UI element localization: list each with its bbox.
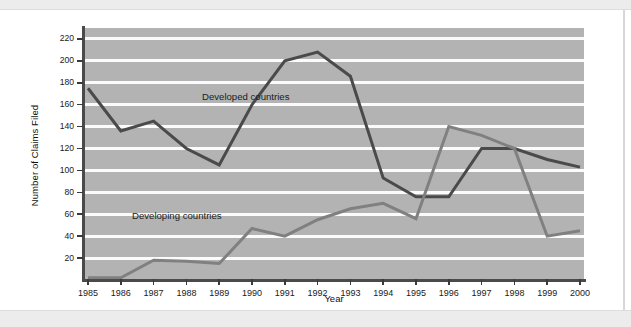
x-tick-mark xyxy=(186,279,188,285)
y-tick-mark xyxy=(77,60,83,62)
x-tick-mark xyxy=(251,279,253,285)
x-tick-mark xyxy=(153,279,155,285)
y-tick-label: 20 xyxy=(34,253,74,263)
x-tick-mark xyxy=(120,279,122,285)
x-tick-mark xyxy=(546,279,548,285)
y-tick-label: 40 xyxy=(34,231,74,241)
x-tick-mark xyxy=(415,279,417,285)
line-chart: Number of Claims Filed Year Developed co… xyxy=(4,10,625,310)
y-tick-mark xyxy=(77,104,83,106)
y-tick-label: 180 xyxy=(34,77,74,87)
x-tick-mark xyxy=(448,279,450,285)
x-tick-mark xyxy=(218,279,220,285)
page-bottom-band xyxy=(0,310,631,327)
series-label-developing: Developing countries xyxy=(132,210,222,221)
y-tick-mark xyxy=(77,235,83,237)
series-label-developed: Developed countries xyxy=(202,91,289,102)
x-tick-mark xyxy=(382,279,384,285)
y-tick-mark xyxy=(77,170,83,172)
x-tick-mark xyxy=(87,279,89,285)
y-tick-mark xyxy=(77,126,83,128)
series-line-developed xyxy=(88,52,580,197)
y-tick-label: 200 xyxy=(34,55,74,65)
series-lines xyxy=(84,28,584,280)
x-tick-mark xyxy=(317,279,319,285)
x-axis-line xyxy=(82,279,586,282)
x-tick-label: 2000 xyxy=(558,288,602,298)
plot-area: Developed countries Developing countries xyxy=(84,28,584,280)
x-tick-mark xyxy=(481,279,483,285)
y-tick-label: 60 xyxy=(34,209,74,219)
y-tick-mark xyxy=(77,148,83,150)
figure-page: Number of Claims Filed Year Developed co… xyxy=(4,10,625,310)
x-tick-mark xyxy=(284,279,286,285)
y-tick-mark xyxy=(77,82,83,84)
y-tick-mark xyxy=(77,257,83,259)
y-tick-mark xyxy=(77,213,83,215)
y-tick-label: 160 xyxy=(34,99,74,109)
y-tick-label: 140 xyxy=(34,121,74,131)
page-top-band xyxy=(0,0,631,10)
y-tick-mark xyxy=(77,192,83,194)
y-tick-label: 120 xyxy=(34,143,74,153)
y-tick-label: 220 xyxy=(34,33,74,43)
y-tick-mark xyxy=(77,38,83,40)
x-tick-mark xyxy=(514,279,516,285)
y-tick-label: 80 xyxy=(34,187,74,197)
y-tick-label: 100 xyxy=(34,165,74,175)
x-tick-mark xyxy=(350,279,352,285)
x-tick-mark xyxy=(579,279,581,285)
y-axis-line xyxy=(82,26,85,282)
